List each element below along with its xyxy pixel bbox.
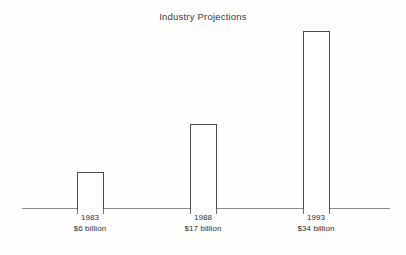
bar-1983[interactable]: [77, 172, 104, 209]
chart-screenshot: Industry Projections 1983 $6 billion 198…: [0, 0, 406, 255]
category-label-1988: 1988 $17 billion: [163, 213, 243, 234]
category-value-1988: $17 billion: [163, 224, 243, 235]
category-year-1983: 1983: [50, 213, 130, 224]
bar-1993[interactable]: [303, 31, 330, 209]
category-value-1983: $6 billion: [50, 224, 130, 235]
category-year-1988: 1988: [163, 213, 243, 224]
category-value-1993: $34 billion: [276, 224, 356, 235]
plot-area: 1983 $6 billion 1988 $17 billion 1993 $3…: [0, 0, 406, 255]
bar-1988[interactable]: [190, 124, 217, 209]
category-year-1993: 1993: [276, 213, 356, 224]
category-label-1983: 1983 $6 billion: [50, 213, 130, 234]
category-label-1993: 1993 $34 billion: [276, 213, 356, 234]
